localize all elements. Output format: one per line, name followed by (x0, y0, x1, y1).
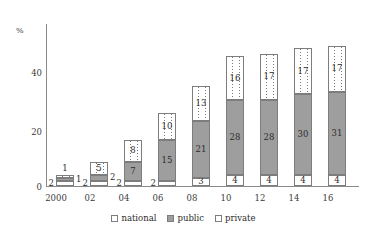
y-tick-label-0: 0 (16, 182, 42, 192)
bar-segment-private-2000[interactable] (56, 175, 74, 178)
y-tick-label-40: 40 (16, 68, 42, 78)
bar-value-national-14: 4 (294, 176, 312, 185)
bar-value-private-16: 17 (328, 64, 346, 73)
x-axis-line (46, 186, 359, 187)
legend-item-public[interactable]: public (167, 213, 204, 223)
bar-value-private-10: 16 (226, 74, 244, 83)
bar-value-national-08: 3 (192, 177, 210, 186)
bar-value-national-16: 4 (328, 176, 346, 185)
bar-segment-national-02[interactable] (90, 181, 108, 186)
bar-value-private-08: 13 (192, 99, 210, 108)
bar-value-national-12: 4 (260, 176, 278, 185)
bar-value-public-04: 7 (124, 167, 142, 176)
bar-segment-national-04[interactable] (124, 181, 142, 186)
plot-area: 211225278215103211342816428174301743117 (47, 24, 359, 186)
legend-swatch-national-icon (111, 215, 118, 222)
bar-segment-national-06[interactable] (158, 181, 176, 186)
stacked-bar-chart: % 40 20 0 211225278215103211342816428174… (0, 0, 367, 239)
legend-label-public: public (177, 213, 204, 223)
bar-value-private-02: 5 (90, 164, 108, 173)
bar-value-national-10: 4 (226, 176, 244, 185)
bar-value-private-14: 17 (294, 67, 312, 76)
bar-segment-national-2000[interactable] (56, 181, 74, 186)
legend-swatch-public-icon (167, 215, 174, 222)
bar-value-private-12: 17 (260, 72, 278, 81)
legend-item-private[interactable]: private (215, 213, 256, 223)
bar-value-public-14: 30 (294, 130, 312, 139)
bar-value-national-02: 2 (74, 179, 88, 188)
bar-value-national-2000: 2 (40, 179, 54, 188)
chart-legend: national public private (0, 213, 367, 223)
bar-value-private-2000: 1 (56, 164, 74, 173)
bar-value-public-08: 21 (192, 145, 210, 154)
bar-value-private-04: 8 (124, 146, 142, 155)
bar-value-public-10: 28 (226, 133, 244, 142)
bar-value-private-06: 10 (158, 122, 176, 131)
legend-label-private: private (225, 213, 256, 223)
bar-value-national-06: 2 (142, 179, 156, 188)
legend-label-national: national (121, 213, 156, 223)
bar-value-public-12: 28 (260, 133, 278, 142)
bar-segment-public-02[interactable] (90, 175, 108, 180)
bar-value-public-16: 31 (328, 129, 346, 138)
y-axis-unit-label: % (16, 26, 24, 35)
legend-swatch-private-icon (215, 215, 222, 222)
bar-value-national-04: 2 (108, 179, 122, 188)
bar-segment-public-2000[interactable] (56, 178, 74, 181)
y-tick-label-20: 20 (16, 127, 42, 137)
x-tick-label-16: 16 (308, 193, 348, 203)
legend-item-national[interactable]: national (111, 213, 156, 223)
bar-value-public-06: 15 (158, 156, 176, 165)
